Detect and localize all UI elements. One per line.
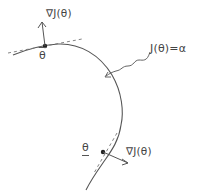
level-set-curve — [13, 44, 122, 190]
upper-theta-label: θ — [39, 50, 46, 61]
upper-gradient-label: ∇J(θ) — [46, 8, 72, 19]
diagram-canvas — [0, 0, 207, 194]
lower-theta-label: θ — [82, 142, 89, 153]
curve-level-label: J(θ)=α — [150, 43, 186, 54]
lower-gradient-label: ∇J(θ) — [126, 146, 152, 157]
wavy-pointer-arrow — [106, 52, 150, 76]
upper-theta-symbol: θ — [39, 47, 46, 62]
lower-theta-symbol: θ — [82, 141, 89, 156]
